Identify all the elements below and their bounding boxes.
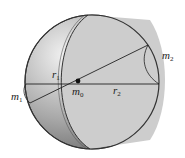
point-mass-m0 bbox=[76, 79, 81, 84]
shell-diagram: m1 m2 m0 r1 r2 bbox=[0, 0, 185, 158]
label-m2: m2 bbox=[162, 49, 174, 63]
label-m1: m1 bbox=[11, 90, 23, 104]
sphere-shell bbox=[25, 15, 165, 149]
